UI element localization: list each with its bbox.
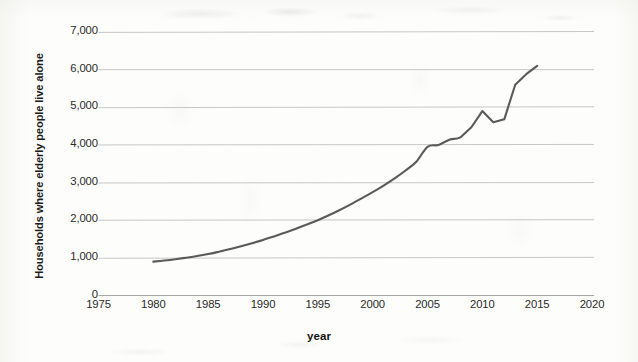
y-tick-label: 3,000: [42, 175, 98, 187]
y-tick-label: 1,000: [42, 250, 98, 262]
gridline: [99, 107, 595, 108]
y-axis-title: Households where elderly people live alo…: [33, 36, 45, 296]
x-axis-title: year: [0, 330, 638, 342]
gridline-group: [99, 32, 595, 296]
x-tick-label: 1990: [237, 298, 289, 310]
x-tick-label: 2000: [347, 298, 399, 310]
x-tick-label: 1980: [127, 298, 179, 310]
gridline: [99, 220, 595, 221]
x-tick-label: 1995: [292, 298, 344, 310]
x-axis-tick-labels: 1975198019851990199520002005201020152020: [0, 298, 638, 318]
x-tick-label: 2020: [566, 298, 618, 310]
gridline: [99, 32, 595, 33]
gridline: [99, 257, 595, 258]
x-tick-label: 2010: [456, 298, 508, 310]
x-tick-label: 2015: [511, 298, 563, 310]
data-series-line: [153, 66, 537, 262]
x-tick-label: 1975: [73, 298, 125, 310]
y-tick-label: 4,000: [42, 137, 98, 149]
x-tick-label: 1985: [182, 298, 234, 310]
line-chart-figure: 01,0002,0003,0004,0005,0006,0007,000 197…: [0, 0, 638, 362]
y-tick-label: 2,000: [42, 212, 98, 224]
gridline: [99, 144, 595, 145]
y-tick-label: 7,000: [42, 24, 98, 36]
y-tick-label: 6,000: [42, 62, 98, 74]
x-tick-label: 2005: [402, 298, 454, 310]
y-tick-label: 5,000: [42, 99, 98, 111]
